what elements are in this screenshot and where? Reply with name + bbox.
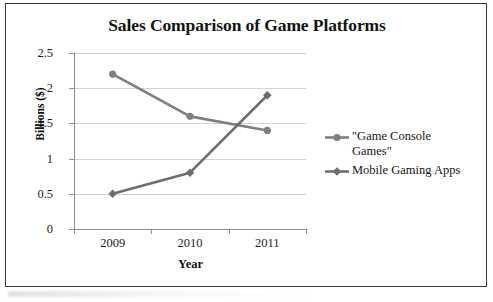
diamond-marker bbox=[324, 164, 350, 179]
circle-marker bbox=[324, 130, 350, 145]
data-point-2011 bbox=[264, 127, 271, 134]
data-point-2009 bbox=[108, 190, 117, 199]
legend-entry-2[interactable]: Mobile Gaming Apps bbox=[324, 163, 484, 179]
scan-artifact bbox=[8, 291, 308, 297]
series-1 bbox=[109, 71, 271, 135]
series-line bbox=[113, 95, 268, 194]
series-2 bbox=[108, 91, 271, 198]
series-line bbox=[113, 74, 268, 130]
chart-frame: Sales Comparison of Game Platforms 00.51… bbox=[5, 3, 487, 287]
legend-label-1: "Game Console Games" bbox=[352, 129, 431, 159]
legend-entry-1[interactable]: "Game Console Games" bbox=[324, 129, 484, 159]
legend-label-2: Mobile Gaming Apps bbox=[352, 163, 460, 178]
data-point-2010 bbox=[186, 113, 193, 120]
chart-figure: Sales Comparison of Game Platforms 00.51… bbox=[0, 0, 493, 302]
data-point-2009 bbox=[109, 71, 116, 78]
chart-legend: "Game Console Games"Mobile Gaming Apps bbox=[324, 129, 484, 183]
